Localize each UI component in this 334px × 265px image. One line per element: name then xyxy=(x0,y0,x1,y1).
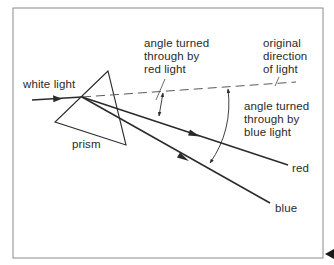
blue-ray-label: blue xyxy=(275,202,297,215)
prism-diagram: white light prism angle turned through b… xyxy=(0,0,334,265)
next-page-arrow-icon[interactable] xyxy=(325,249,334,259)
blue-angle-label: angle turned through by blue light xyxy=(244,100,309,139)
white-light-label: white light xyxy=(23,78,75,91)
blue-angle-indicator xyxy=(210,89,229,163)
red-angle-label-line-1: angle turned xyxy=(144,37,209,50)
incident-ray-arrow xyxy=(53,95,62,102)
original-direction-line xyxy=(82,82,296,97)
original-direction-leader xyxy=(275,77,279,86)
original-direction-label: original direction of light xyxy=(263,37,307,76)
blue-angle-label-line-3: blue light xyxy=(244,126,309,139)
red-angle-leader xyxy=(156,79,165,100)
red-ray-arrow xyxy=(188,130,200,137)
red-ray-label: red xyxy=(292,162,309,175)
red-angle-indicator xyxy=(159,93,163,116)
original-direction-label-line-1: original xyxy=(263,37,307,50)
red-angle-label-line-3: red light xyxy=(144,63,209,76)
original-direction-label-line-2: direction xyxy=(263,50,307,63)
blue-angle-label-line-1: angle turned xyxy=(244,100,309,113)
original-direction-label-line-3: of light xyxy=(263,63,307,76)
prism-label: prism xyxy=(72,138,101,151)
red-angle-label: angle turned through by red light xyxy=(144,37,209,76)
blue-angle-label-line-2: through by xyxy=(244,113,309,126)
red-angle-label-line-2: through by xyxy=(144,50,209,63)
